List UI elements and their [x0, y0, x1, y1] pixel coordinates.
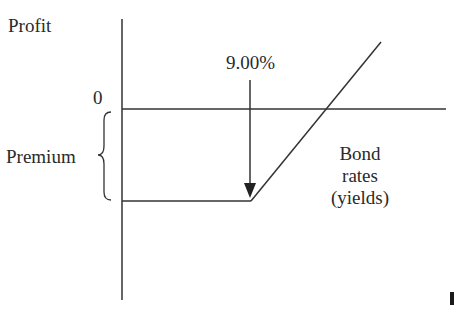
page-edge-mark	[450, 292, 454, 305]
x-axis-label-line-2: rates	[310, 165, 410, 187]
y-axis-label: Profit	[8, 15, 51, 37]
premium-brace	[98, 112, 111, 200]
strike-arrow-head-icon	[244, 183, 256, 198]
zero-label: 0	[93, 87, 103, 109]
strike-label: 9.00%	[226, 52, 275, 74]
x-axis-label: Bond rates (yields)	[310, 143, 410, 209]
premium-label: Premium	[6, 146, 76, 168]
x-axis-label-line-3: (yields)	[310, 187, 410, 209]
x-axis-label-line-1: Bond	[310, 143, 410, 165]
